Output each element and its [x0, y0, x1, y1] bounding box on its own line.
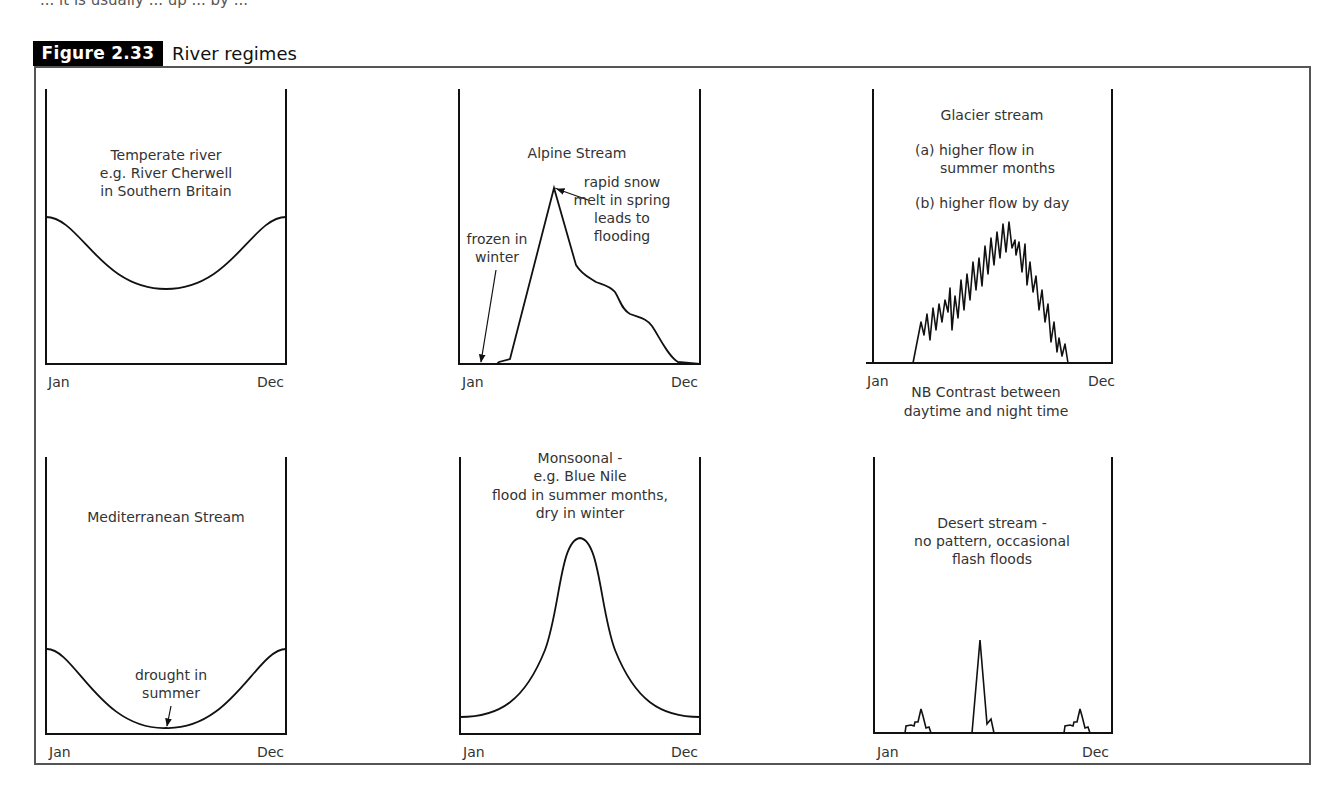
panel-caption-line: flood in summer months, — [492, 487, 668, 503]
callout-snowmelt-line: leads to — [594, 210, 650, 226]
x-label-start: Jan — [47, 374, 70, 390]
panel-caption-line: Mediterranean Stream — [87, 509, 244, 525]
x-label-end: Dec — [1082, 744, 1109, 760]
river-regimes-figure: Temperate river e.g. River Cherwell in S… — [0, 0, 1329, 795]
panel-caption-line: Desert stream - — [937, 515, 1047, 531]
x-label-end: Dec — [257, 744, 284, 760]
panel-monsoonal: Monsoonal - e.g. Blue Nile flood in summ… — [459, 450, 701, 760]
callout-drought-line: summer — [142, 685, 200, 701]
panel-caption-line: Temperate river — [109, 147, 221, 163]
hydrograph-line-daily-oscillation — [913, 222, 1068, 363]
callout-snowmelt-line: melt in spring — [574, 192, 671, 208]
panel-caption-line: Alpine Stream — [528, 145, 627, 161]
x-label-start: Jan — [461, 374, 484, 390]
callout-frozen-line: winter — [475, 249, 519, 265]
x-label-end: Dec — [1088, 373, 1115, 389]
hydrograph-line — [460, 538, 700, 717]
x-label-start: Jan — [462, 744, 485, 760]
panel-caption-line: (a) higher flow in — [915, 142, 1034, 158]
x-label-end: Dec — [257, 374, 284, 390]
panel-caption-line: dry in winter — [536, 505, 625, 521]
x-label-end: Dec — [671, 744, 698, 760]
panel-temperate-river: Temperate river e.g. River Cherwell in S… — [45, 89, 287, 390]
callout-snowmelt-line: rapid snow — [584, 174, 661, 190]
callout-frozen-line: frozen in — [467, 231, 528, 247]
callout-snowmelt-line: flooding — [594, 228, 651, 244]
panel-caption-line: summer months — [940, 160, 1055, 176]
note-line: NB Contrast between — [911, 384, 1060, 400]
panel-caption-line: flash floods — [952, 551, 1032, 567]
drought-callout-arrow — [167, 706, 171, 726]
x-label-end: Dec — [671, 374, 698, 390]
x-label-start: Jan — [876, 744, 899, 760]
panel-caption-line: e.g. River Cherwell — [100, 165, 232, 181]
panel-caption-line: e.g. Blue Nile — [533, 468, 626, 484]
panel-alpine-stream: Alpine Stream rapid snow melt in spring … — [458, 89, 701, 390]
hydrograph-line — [46, 217, 286, 289]
callout-drought-line: drought in — [135, 667, 207, 683]
x-label-start: Jan — [48, 744, 71, 760]
panel-glacier-stream: Glacier stream (a) higher flow in summer… — [866, 89, 1115, 419]
x-label-start: Jan — [866, 373, 889, 389]
panel-caption-line: Glacier stream — [941, 107, 1044, 123]
panel-mediterranean-stream: Mediterranean Stream drought in summer J… — [45, 457, 287, 760]
note-line: daytime and night time — [904, 403, 1069, 419]
panel-caption-line: no pattern, occasional — [914, 533, 1070, 549]
flash-flood-spike-3 — [1064, 709, 1090, 733]
panel-desert-stream: Desert stream - no pattern, occasional f… — [873, 457, 1113, 760]
panel-caption-line: Monsoonal - — [538, 450, 623, 466]
panel-caption-line: (b) higher flow by day — [915, 195, 1069, 211]
panel-caption-line: in Southern Britain — [100, 183, 231, 199]
frozen-callout-arrow — [481, 270, 496, 362]
flash-flood-spike-2 — [972, 640, 994, 733]
flash-flood-spike-1 — [905, 709, 931, 733]
